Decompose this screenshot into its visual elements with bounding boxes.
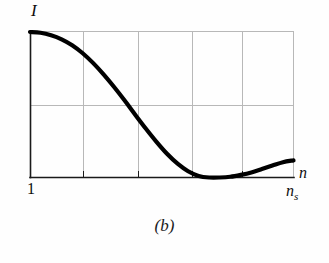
x-axis-end-label-subscript: s	[294, 190, 298, 202]
figure-container: I 1 n ns (b)	[0, 0, 329, 263]
x-axis-end-label-base: n	[286, 182, 294, 199]
y-axis-label: I	[31, 2, 37, 19]
x-axis-start-label: 1	[27, 181, 35, 197]
x-axis-end-label: ns	[286, 183, 298, 202]
intensity-curve	[30, 32, 294, 178]
figure-caption: (b)	[0, 216, 329, 236]
main-axes	[30, 31, 294, 178]
plot-frame-light	[31, 32, 294, 178]
vertical-gridlines	[84, 32, 243, 178]
x-axis-label: n	[299, 165, 307, 181]
